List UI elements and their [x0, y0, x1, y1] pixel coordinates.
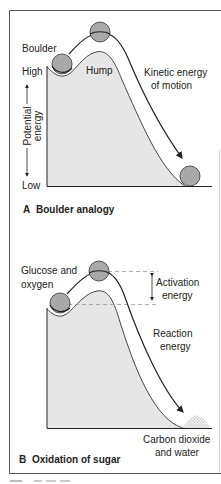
label-hump: Hump [86, 65, 113, 76]
axis-label-potential-energy: Potential energy [22, 107, 43, 146]
potential-energy-hill-b [47, 291, 183, 428]
label-low: Low [22, 180, 41, 191]
label-high: High [22, 66, 43, 77]
label-reactants-line2: oxygen [21, 279, 53, 290]
diagram-canvas: Boulder High Hump Kinetic energy of moti… [0, 0, 221, 484]
label-activation-line1: Activation [156, 277, 199, 288]
panel-a-boulder-analogy: Boulder High Hump Kinetic energy of moti… [22, 22, 212, 215]
label-reactants-line1: Glucose and [21, 265, 77, 276]
boulder-end-icon [180, 166, 200, 186]
label-boulder: Boulder [22, 43, 57, 54]
label-reaction-line1: Reaction [153, 328, 192, 339]
energy-diagram-figure: Boulder High Hump Kinetic energy of moti… [0, 0, 221, 484]
label-products-line1: Carbon dioxide [143, 434, 211, 445]
label-kinetic-line2: of motion [151, 80, 192, 91]
label-reaction-line2: energy [160, 341, 191, 352]
panel-b-title: Oxidation of sugar [32, 454, 120, 465]
panel-b-letter: B [19, 454, 26, 465]
label-products-line2: and water [155, 447, 200, 458]
products-pile [182, 416, 211, 428]
panel-a-title: Boulder analogy [36, 204, 115, 215]
caption-truncated [10, 480, 70, 482]
axis-label-line2: energy [32, 111, 43, 142]
label-activation-line2: energy [162, 290, 193, 301]
panel-a-letter: A [23, 204, 30, 215]
label-kinetic-line1: Kinetic energy [144, 67, 207, 78]
panel-b-oxidation-of-sugar: Glucose and oxygen Activation energy Rea… [19, 261, 212, 465]
